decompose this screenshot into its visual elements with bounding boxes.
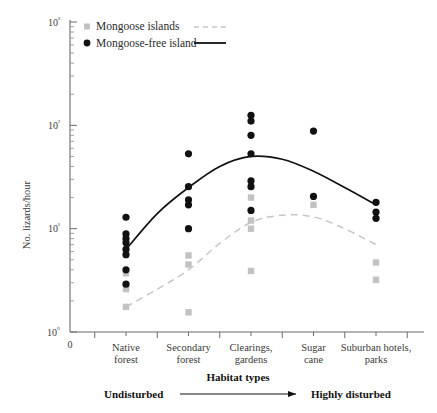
data-point [248, 194, 254, 200]
legend-label-mongoose-free-island: Mongoose-free island [96, 37, 197, 50]
y-axis-tick-labels: 10⁰10¹10²10³ [47, 16, 60, 338]
data-point [247, 117, 254, 124]
x-axis-title: Habitat types [206, 371, 270, 383]
x-axis-ticks [95, 332, 408, 338]
data-point [185, 309, 191, 315]
data-point [247, 150, 254, 157]
legend-circle-marker [84, 40, 91, 47]
data-point [123, 304, 129, 310]
data-series-layer [122, 112, 379, 316]
y-tick-label-100: 10² [48, 119, 60, 131]
data-point [122, 251, 129, 258]
data-point [122, 239, 129, 246]
x-axis-origin-label: 0 [68, 339, 73, 350]
data-point [248, 217, 254, 223]
data-point [185, 150, 192, 157]
y-tick-label-10: 10¹ [48, 222, 60, 234]
data-point [248, 268, 254, 274]
legend-square-marker [84, 24, 90, 30]
data-point [247, 183, 254, 190]
y-axis-title: No. lizards/hour [21, 180, 32, 249]
x-category-label-1: Secondaryforest [166, 342, 211, 365]
chart-container: 10⁰10¹10²10³ No. lizards/hour 0 Nativefo… [0, 0, 437, 413]
data-point [373, 259, 379, 265]
data-point [310, 127, 317, 134]
data-point [122, 266, 129, 273]
x-axis-category-labels: NativeforestSecondaryforestClearings,gar… [112, 342, 411, 365]
x-category-label-0: Nativeforest [112, 342, 140, 365]
gradient-left-label: Undisturbed [104, 388, 163, 400]
data-point [247, 132, 254, 139]
habitat-gradient-annotation: Habitat types Undisturbed Highly disturb… [104, 371, 391, 400]
data-point [185, 261, 191, 267]
data-point [185, 252, 191, 258]
data-point [247, 207, 254, 214]
gradient-right-label: Highly disturbed [311, 388, 391, 400]
data-point [185, 225, 192, 232]
data-point [122, 281, 129, 288]
data-point [372, 199, 379, 206]
data-point [372, 208, 379, 215]
data-point [310, 193, 317, 200]
mongoose-free-island-trend-line [126, 156, 376, 249]
data-point [185, 183, 192, 190]
x-category-label-3: Sugarcane [301, 342, 326, 365]
data-point [185, 201, 192, 208]
data-point [373, 277, 379, 283]
x-category-label-4: Suburban hotels,parks [341, 342, 412, 365]
y-tick-label-1000: 10³ [48, 16, 60, 28]
y-axis-ticks [70, 22, 77, 332]
data-point [122, 214, 129, 221]
x-category-label-2: Clearings,gardens [230, 342, 273, 365]
gradient-arrow-icon [180, 391, 296, 397]
legend-label-mongoose-islands: Mongoose islands [96, 20, 180, 33]
data-point [310, 202, 316, 208]
data-point [372, 215, 379, 222]
legend: Mongoose islands Mongoose-free island [84, 20, 226, 50]
y-tick-label-1: 10⁰ [47, 326, 60, 338]
data-point [248, 225, 254, 231]
lizard-abundance-scatter-chart: 10⁰10¹10²10³ No. lizards/hour 0 Nativefo… [0, 0, 437, 413]
